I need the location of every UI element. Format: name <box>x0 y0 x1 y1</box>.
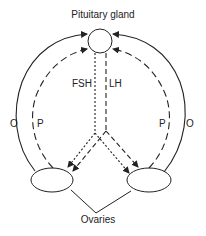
left-solid-feedback-arc <box>16 34 87 171</box>
right-dashed-feedback-arc <box>113 49 169 168</box>
p-label-left: P <box>37 119 44 129</box>
fsh-label: FSH <box>72 79 92 89</box>
lh-branch-left <box>73 131 106 171</box>
p-label-right: P <box>159 119 166 129</box>
lh-label: LH <box>109 79 122 89</box>
o-label-left: O <box>10 119 18 129</box>
hormone-feedback-diagram <box>0 0 206 236</box>
ovaries-label: Ovaries <box>81 215 115 225</box>
ovary-left-node <box>31 168 73 192</box>
o-label-right: O <box>186 119 194 129</box>
pituitary-gland-label: Pituitary gland <box>71 10 134 20</box>
left-dashed-feedback-arc <box>33 49 87 168</box>
ovaries-label-connector <box>71 190 131 213</box>
pituitary-gland-node <box>88 29 112 53</box>
lh-branch-right <box>106 131 138 167</box>
